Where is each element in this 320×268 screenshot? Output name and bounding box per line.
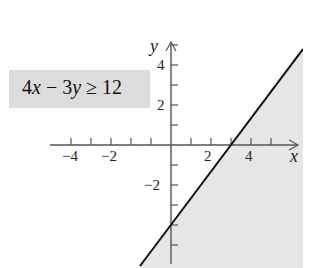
y-tick-label-m2: −2 — [144, 177, 160, 194]
x-tick-label-m2: −2 — [101, 148, 117, 165]
ineq-coef-4: 4 — [22, 76, 32, 98]
x-axis-label: x — [290, 146, 298, 167]
x-tick-label-m4: −4 — [62, 148, 78, 165]
ineq-var-x: x — [32, 76, 41, 98]
x-tick-label-2: 2 — [204, 148, 212, 165]
x-tick-label-4: 4 — [245, 148, 253, 165]
y-tick-label-2: 2 — [157, 97, 165, 114]
y-tick-label-4: 4 — [157, 57, 165, 74]
ineq-var-y: y — [72, 76, 81, 98]
ineq-geq-12: ≥ 12 — [81, 76, 122, 98]
y-axis-label: y — [150, 36, 158, 57]
inequality-label: 4x − 3y ≥ 12 — [22, 76, 122, 99]
ineq-minus-3: − 3 — [41, 76, 72, 98]
